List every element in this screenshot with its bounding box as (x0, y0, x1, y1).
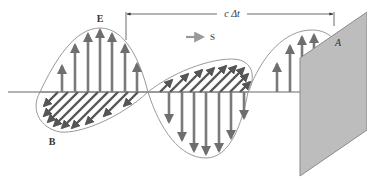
label-e: E (97, 13, 104, 24)
label-a: A (334, 37, 342, 48)
area-plane (300, 12, 367, 176)
b-field-lobe-3 (247, 92, 300, 132)
e-field-lobe-1 (40, 28, 148, 92)
label-c-delta-t: c Δt (224, 8, 240, 19)
b-field-lobe-1 (36, 92, 148, 132)
diagram-canvas: E B S A c Δt (0, 0, 367, 182)
label-s: S (210, 32, 215, 42)
e-field-lobe-2 (148, 92, 248, 158)
em-wave-diagram: E B S A c Δt (0, 0, 367, 182)
b-field-lobe-2 (148, 59, 252, 92)
label-b: B (49, 136, 56, 147)
